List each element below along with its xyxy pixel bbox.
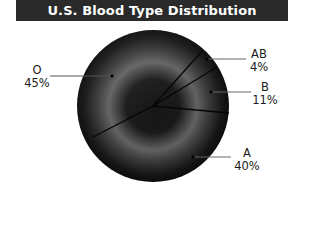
label-ab-value: 4% <box>246 61 272 74</box>
label-o-value: 45% <box>22 77 52 90</box>
label-b: B 11% <box>251 81 279 107</box>
label-a-value: 40% <box>232 160 262 173</box>
label-o: O 45% <box>22 64 52 90</box>
label-b-value: 11% <box>251 94 279 107</box>
label-a: A 40% <box>232 147 262 173</box>
label-ab: AB 4% <box>246 48 272 74</box>
